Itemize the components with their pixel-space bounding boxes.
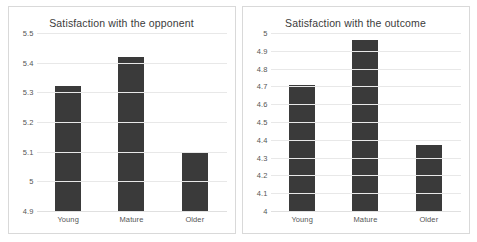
x-axis-labels-opponent: YoungMatureOlder: [37, 211, 227, 233]
grid-line: [271, 158, 461, 159]
y-tick-label: 4.5: [257, 118, 268, 127]
bar-older: [416, 145, 442, 211]
plot-area-outcome: 54.94.84.74.64.54.44.34.24.14: [243, 33, 469, 211]
grid-line: [271, 33, 461, 34]
x-tick-label: Older: [397, 215, 460, 233]
plot-canvas-opponent: [37, 33, 227, 211]
grid-line: [37, 152, 227, 153]
plot-area-opponent: 5.55.45.35.25.154.9: [9, 33, 235, 211]
x-tick-label: Mature: [334, 215, 397, 233]
y-tick-label: 5.4: [23, 58, 34, 67]
x-tick-label: Mature: [100, 215, 163, 233]
grid-line: [271, 69, 461, 70]
bar-mature: [118, 57, 144, 211]
chart-title-opponent: Satisfaction with the opponent: [9, 7, 235, 33]
y-tick-label: 5.1: [23, 147, 34, 156]
x-axis-opponent: YoungMatureOlder: [9, 211, 235, 233]
grid-line: [37, 92, 227, 93]
grid-line: [271, 175, 461, 176]
chart-panel-outcome: Satisfaction with the outcome 54.94.84.7…: [242, 6, 470, 234]
x-tick-label: Young: [271, 215, 334, 233]
chart-pair-container: Satisfaction with the opponent 5.55.45.3…: [0, 0, 477, 242]
y-axis-opponent: 5.55.45.35.25.154.9: [11, 33, 37, 211]
y-tick-label: 4.6: [257, 100, 268, 109]
y-tick-label: 5: [263, 29, 267, 38]
x-tick-label: Young: [37, 215, 100, 233]
y-tick-label: 4.9: [23, 207, 34, 216]
grid-line: [271, 122, 461, 123]
bar-young: [55, 86, 81, 211]
grid-line: [271, 140, 461, 141]
y-tick-label: 5: [29, 177, 33, 186]
grid-line: [271, 211, 461, 212]
y-tick-label: 4.1: [257, 189, 268, 198]
grid-line: [271, 193, 461, 194]
grid-line: [37, 181, 227, 182]
y-tick-label: 5.2: [23, 118, 34, 127]
grid-line: [37, 33, 227, 34]
grid-line: [37, 211, 227, 212]
plot-canvas-outcome: [271, 33, 461, 211]
y-tick-label: 4.9: [257, 46, 268, 55]
grid-line: [37, 122, 227, 123]
y-tick-label: 4.2: [257, 171, 268, 180]
y-tick-label: 5.5: [23, 29, 34, 38]
y-tick-label: 4.4: [257, 135, 268, 144]
grid-line: [37, 63, 227, 64]
grid-line: [271, 51, 461, 52]
chart-title-outcome: Satisfaction with the outcome: [243, 7, 469, 33]
x-axis-labels-outcome: YoungMatureOlder: [271, 211, 461, 233]
chart-panel-opponent: Satisfaction with the opponent 5.55.45.3…: [8, 6, 236, 234]
y-tick-label: 5.3: [23, 88, 34, 97]
x-tick-label: Older: [163, 215, 226, 233]
y-tick-label: 4.7: [257, 82, 268, 91]
y-axis-outcome: 54.94.84.74.64.54.44.34.24.14: [245, 33, 271, 211]
y-tick-label: 4.8: [257, 64, 268, 73]
y-tick-label: 4: [263, 207, 267, 216]
y-tick-label: 4.3: [257, 153, 268, 162]
grid-line: [271, 86, 461, 87]
x-axis-outcome: YoungMatureOlder: [243, 211, 469, 233]
bar-mature: [352, 40, 378, 211]
grid-line: [271, 104, 461, 105]
